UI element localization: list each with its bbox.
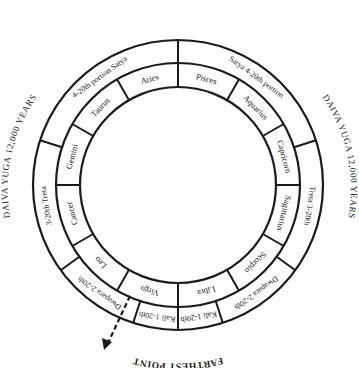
sign-divider [263, 124, 284, 136]
yuga-segment-label: Kali 1-20th [138, 310, 176, 325]
zodiac-sign-labels: PiscesAquariusCapricornSagittariusScorpi… [64, 71, 294, 298]
yuga-segment-label: 3-20th Treta [39, 185, 54, 226]
sign-capricorn: Capricorn [275, 139, 294, 175]
sign-divider [117, 79, 129, 100]
yuga-divider [294, 140, 316, 147]
sign-divider [227, 270, 239, 291]
sign-aries: Aries [139, 72, 159, 86]
yuga-divider [61, 257, 80, 271]
sign-gemini: Gemini [64, 142, 80, 170]
daiva-yuga-diagram: Satya 4-20th portionTreta 3-20thDwapara … [0, 0, 359, 368]
sign-divider [72, 234, 93, 246]
sign-aquarius: Aquarius [241, 93, 270, 122]
inner-ring [80, 87, 276, 283]
middle-ring [56, 63, 300, 307]
sign-divider [117, 270, 129, 291]
right-daiva-yuga-label: DAIVA YUGA 12,000 YEARS [321, 93, 359, 220]
yuga-segment-label: Kali 1-20th [180, 310, 218, 325]
sign-divider [227, 79, 239, 100]
sign-virgo: Virgo [139, 284, 160, 299]
yuga-divider [133, 301, 140, 323]
sign-pisces: Pisces [195, 71, 218, 86]
sign-divider [72, 124, 93, 136]
farthest-point-label: FARTHEST POINT [132, 356, 225, 368]
sign-sagittarius: Sagittarius [275, 195, 294, 233]
sign-cancer: Cancer [64, 200, 80, 226]
sign-divider [263, 234, 284, 246]
arrowhead-icon [102, 338, 112, 350]
yuga-divider [277, 257, 296, 271]
sign-leo: Leo [92, 255, 108, 271]
sign-libra: Libra [196, 284, 217, 298]
yuga-divider [40, 140, 62, 147]
yuga-segment-label: Treta 3-20th [302, 186, 317, 226]
